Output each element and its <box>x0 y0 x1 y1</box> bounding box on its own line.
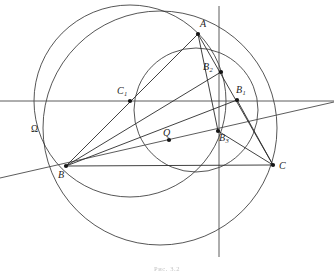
small-arc <box>134 48 258 172</box>
point-label-B3: B3 <box>219 133 228 143</box>
vertex-dot-B2 <box>219 70 223 74</box>
point-label-text-Omega: Ω <box>31 124 38 134</box>
point-label-text-C: C <box>279 160 286 171</box>
vertex-dot-B1 <box>235 98 239 102</box>
point-label-C1: C1 <box>117 86 127 96</box>
seg-B1-C <box>237 100 273 165</box>
point-label-B2: B2 <box>203 62 212 72</box>
vertex-dot-C <box>271 163 275 167</box>
vertex-dot-Q <box>167 138 171 142</box>
point-label-sub-B1: 1 <box>242 89 245 96</box>
point-label-B: B <box>58 170 64 180</box>
point-label-A: A <box>200 19 206 29</box>
point-label-text-A: A <box>200 18 206 29</box>
vertex-dot-C1 <box>128 99 132 103</box>
seg-B-B2 <box>66 72 221 166</box>
point-label-Q: Q <box>163 128 170 138</box>
point-label-C: C <box>279 161 286 171</box>
point-label-Omega: Ω <box>31 125 38 135</box>
geometry-canvas <box>0 0 334 278</box>
seg-A-B3 <box>198 34 218 131</box>
point-label-B1: B1 <box>236 85 245 95</box>
figure-caption: Рис. 3.2 <box>0 265 334 272</box>
seg-B-B1 <box>66 100 237 166</box>
point-label-text-C1: C <box>117 85 124 96</box>
geometry-figure: ABCB1B2B3C1QΩ Рис. 3.2 <box>0 0 334 278</box>
point-label-sub-C1: 1 <box>124 90 127 97</box>
point-label-sub-B2: 2 <box>209 66 212 73</box>
big-circle <box>43 11 277 245</box>
seg-B-A <box>66 34 198 166</box>
vertex-dot-A <box>196 32 200 36</box>
point-label-text-B: B <box>58 169 64 180</box>
point-label-sub-B3: 3 <box>225 137 228 144</box>
vertex-dot-B <box>64 164 68 168</box>
point-label-text-Q: Q <box>163 127 170 138</box>
seg-B-C <box>66 165 273 166</box>
circles-group <box>34 5 277 245</box>
